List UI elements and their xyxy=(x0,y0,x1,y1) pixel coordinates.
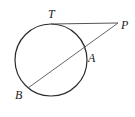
label-b: B xyxy=(15,88,23,102)
label-a: A xyxy=(87,51,96,65)
label-p: P xyxy=(120,18,129,32)
tangent-segment-tp xyxy=(51,23,118,24)
label-t: T xyxy=(48,7,56,21)
secant-segment-pb xyxy=(28,23,118,88)
geometry-diagram: T P A B xyxy=(0,0,135,117)
circle xyxy=(15,24,87,96)
